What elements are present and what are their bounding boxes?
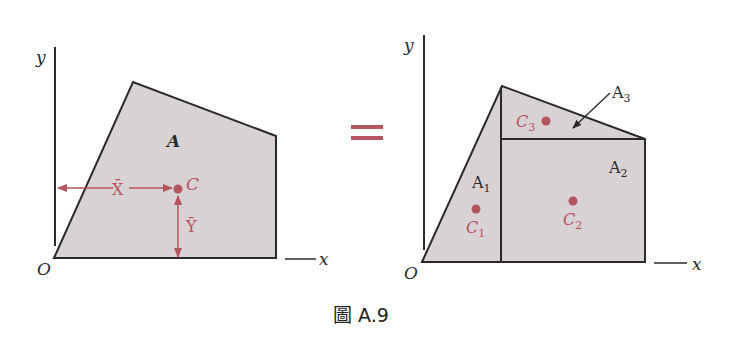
figure-caption: 圖 A.9 [333, 300, 389, 327]
origin-label: O [404, 263, 418, 283]
area-a-shape [54, 82, 276, 258]
ybar-label: Ȳ [185, 216, 197, 236]
x-axis-label: x [319, 249, 329, 269]
centroid-c-label: C [186, 174, 199, 194]
y-axis-label: y [35, 47, 46, 67]
right-figure: y x O A1 A2 A3 C1 C2 C3 [403, 35, 702, 283]
centroid-c3-dot [542, 117, 551, 126]
origin-label: O [37, 259, 51, 279]
centroid-c-dot [174, 185, 183, 194]
x-axis-label: x [692, 254, 702, 274]
area-a-label: A [165, 131, 180, 151]
equals-sign [351, 125, 383, 140]
xbar-label: X̄ [112, 178, 124, 199]
area-a3-label: A3 [611, 83, 631, 105]
y-axis-label: y [403, 35, 414, 55]
composite-area-diagram: y x O A C X̄ Ȳ y x O A1 A2 A3 C1 C2 C3 [0, 0, 741, 341]
centroid-c1-dot [472, 205, 481, 214]
left-figure: y x O A C X̄ Ȳ [35, 47, 329, 279]
centroid-c2-dot [569, 197, 578, 206]
